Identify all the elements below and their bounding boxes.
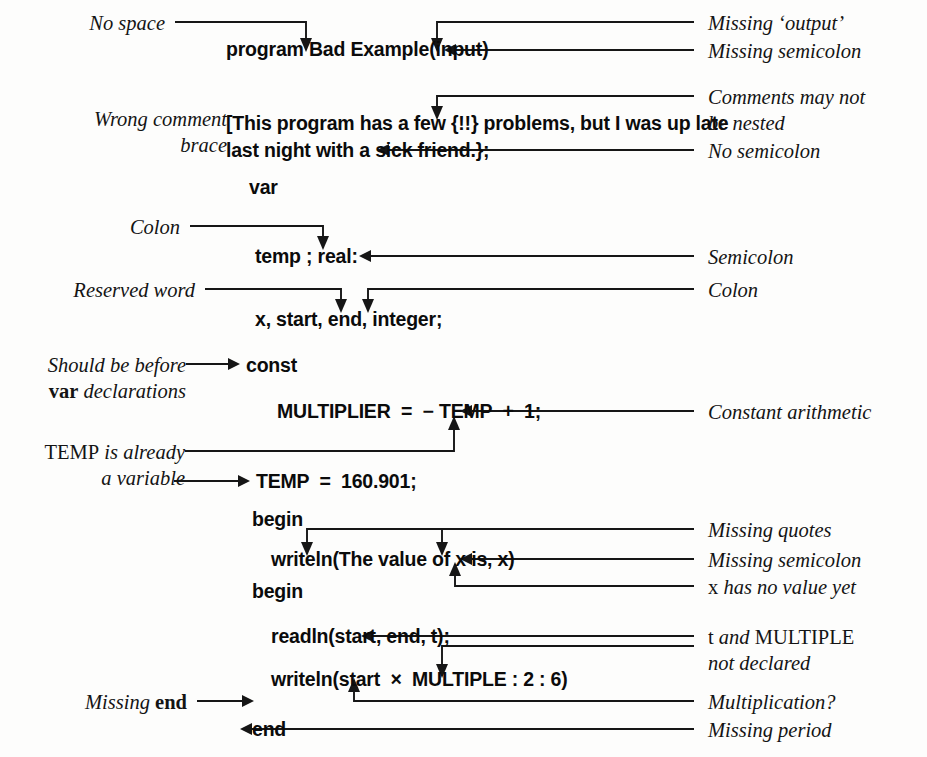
annotation-line: Colon (708, 277, 758, 303)
annotation-t-and-multiple-not-declared: t and MULTIPLEnot declared (708, 624, 854, 676)
leader-missing-quotes (307, 529, 694, 542)
code-text-temp-const: TEMP = 160.901; (256, 470, 416, 492)
annotation-text-run: Comments may not (708, 86, 865, 108)
code-text-readln: readln(start, end, t); (271, 625, 450, 647)
annotation-line: Missing quotes (708, 517, 832, 543)
annotation-line: Comments may not (708, 84, 865, 110)
code-line-comment-1: [This program has a few {!!} problems, b… (226, 112, 728, 135)
keyword-begin-1: begin (252, 508, 303, 530)
keyword-begin-2: begin (252, 580, 303, 602)
annotation-text-run: No semicolon (708, 140, 820, 162)
annotation-line: Missing ‘output’ (708, 10, 844, 36)
annotation-line: not declared (708, 650, 854, 676)
code-line-temp-decl: temp ; real: (255, 245, 358, 268)
leader-colon-left (190, 226, 323, 236)
annotation-text-run: brace (180, 134, 227, 156)
annotation-comments-may-not-be-nested: Comments may notbe nested (708, 84, 865, 136)
annotation-text-run: MULTIPLE (755, 626, 854, 648)
code-line-writeln-1: writeln(The value of x is, x) (271, 548, 514, 571)
annotation-text-run: and (714, 626, 755, 648)
annotation-text-run: Reserved word (73, 279, 195, 301)
code-line-writeln-2: writeln(start × MULTIPLE : 2 : 6) (271, 668, 568, 691)
leader-not-declared-b (442, 646, 694, 664)
annotation-text-run: No space (89, 12, 165, 34)
annotation-line: Colon (130, 214, 180, 240)
keyword-program: program (226, 38, 304, 60)
code-text-temp-decl: temp ; real: (255, 245, 358, 267)
annotation-text-run: TEMP (45, 441, 100, 463)
annotation-line: Semicolon (708, 244, 793, 270)
code-text-x-decl: x, start, end, integer; (255, 308, 442, 330)
annotation-missing-end: Missing end (85, 689, 187, 715)
code-line-begin-2: begin (252, 580, 303, 603)
code-line-multiplier: MULTIPLIER = − TEMP + 1; (277, 400, 541, 423)
annotation-no-space: No space (89, 10, 165, 36)
arrowhead-should-be-before (228, 358, 240, 370)
annotation-no-semicolon: No semicolon (708, 138, 820, 164)
annotation-line: x has no value yet (708, 574, 856, 600)
annotation-text-run: Should be before (48, 354, 186, 376)
annotation-should-be-before-var: Should be beforevar declarations (48, 352, 186, 404)
annotation-missing-output: Missing ‘output’ (708, 10, 844, 36)
code-line-readln: readln(start, end, t); (271, 625, 450, 648)
keyword-const: const (246, 354, 297, 376)
annotation-missing-period: Missing period (708, 717, 832, 743)
code-line-end: end (252, 718, 286, 741)
arrowhead-missing-period (240, 723, 252, 735)
annotation-line: Missing semicolon (708, 38, 861, 64)
annotation-text-run: Multiplication? (708, 691, 836, 713)
code-line-begin-1: begin (252, 508, 303, 531)
annotation-text-run: Missing ‘output’ (708, 12, 844, 34)
code-text-program: Bad Example(input) (304, 38, 489, 60)
annotation-line: Should be before (48, 352, 186, 378)
annotation-missing-quotes: Missing quotes (708, 517, 832, 543)
annotation-text-run: Missing semicolon (708, 40, 861, 62)
annotation-text-run: Constant arithmetic (708, 401, 871, 423)
annotation-text-run: Colon (708, 279, 758, 301)
annotation-text-run: Semicolon (708, 246, 793, 268)
annotation-text-run: Missing period (708, 719, 832, 741)
leader-missing-output (437, 22, 694, 38)
annotation-multiplication: Multiplication? (708, 689, 836, 715)
annotation-text-run: end (155, 691, 187, 713)
code-line-x-decl: x, start, end, integer; (255, 308, 442, 331)
code-line-temp-const: TEMP = 160.901; (256, 470, 416, 493)
annotation-line: var declarations (48, 378, 186, 404)
annotation-line: Reserved word (73, 277, 195, 303)
annotation-line: Missing semicolon (708, 547, 861, 573)
annotation-text-run: Missing (85, 691, 155, 713)
annotation-colon-right: Colon (708, 277, 758, 303)
code-text-writeln-1: writeln(The value of x is, x) (271, 548, 514, 570)
annotation-constant-arithmetic: Constant arithmetic (708, 399, 871, 425)
arrowhead-missing-end (242, 695, 254, 707)
annotation-line: TEMP is already (45, 439, 185, 465)
annotation-line: a variable (45, 465, 185, 491)
annotation-line: be nested (708, 110, 865, 136)
annotation-text-run: not declared (708, 652, 810, 674)
annotation-missing-semicolon-1: Missing semicolon (708, 38, 861, 64)
code-line-var: var (249, 176, 278, 199)
annotated-code-figure: program Bad Example(input) [This program… (0, 0, 927, 757)
annotation-line: brace (94, 132, 227, 158)
keyword-var: var (249, 176, 278, 198)
leader-temp-already (185, 430, 454, 451)
annotation-text-run: be nested (708, 112, 785, 134)
annotation-wrong-comment-brace: Wrong commentbrace (94, 106, 227, 158)
annotation-text-run: has no value yet (718, 576, 856, 598)
annotation-line: Missing end (85, 689, 187, 715)
code-text-writeln-2: writeln(start × MULTIPLE : 2 : 6) (271, 668, 568, 690)
arrowhead-semicolon-right (359, 250, 371, 262)
code-text-comment-1: [This program has a few {!!} problems, b… (226, 112, 728, 134)
leader-multiplication (354, 692, 694, 701)
code-line-program: program Bad Example(input) (226, 38, 488, 61)
annotation-missing-semicolon-2: Missing semicolon (708, 547, 861, 573)
keyword-end: end (252, 718, 286, 740)
annotation-text-run: declarations (78, 380, 186, 402)
annotation-temp-is-a-variable: TEMP is alreadya variable (45, 439, 185, 491)
annotation-text-run: Wrong comment (94, 108, 227, 130)
annotation-text-run: Missing quotes (708, 519, 832, 541)
code-text-multiplier: MULTIPLIER = − TEMP + 1; (277, 400, 541, 422)
annotation-line: Wrong comment (94, 106, 227, 132)
annotation-text-run: is already (99, 441, 185, 463)
code-line-comment-2: last night with a sick friend.}; (226, 139, 489, 162)
